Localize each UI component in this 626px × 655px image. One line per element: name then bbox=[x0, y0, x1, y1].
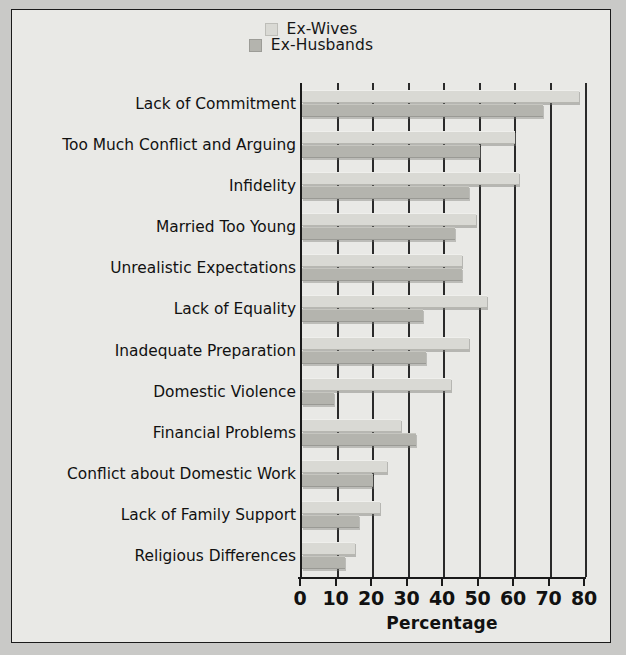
category-label: Conflict about Domestic Work bbox=[67, 465, 296, 483]
category-label: Financial Problems bbox=[153, 424, 296, 442]
bar-ex-wives[interactable] bbox=[302, 295, 487, 308]
bar-ex-wives[interactable] bbox=[302, 90, 579, 103]
chart-row: Lack of Equality bbox=[302, 289, 586, 330]
tick-label-30: 30 bbox=[394, 587, 420, 609]
chart-row: Inadequate Preparation bbox=[302, 330, 586, 371]
legend-swatch-ex-husbands bbox=[249, 39, 262, 52]
bar-ex-husbands[interactable] bbox=[302, 104, 543, 117]
bar-ex-wives[interactable] bbox=[302, 542, 355, 555]
category-label: Religious Differences bbox=[134, 547, 296, 565]
legend-item-ex-wives[interactable]: Ex-Wives bbox=[265, 22, 358, 37]
category-label: Infidelity bbox=[229, 177, 296, 195]
tick-label-40: 40 bbox=[429, 587, 455, 609]
chart-row: Lack of Family Support bbox=[302, 495, 586, 536]
legend-label-ex-wives: Ex-Wives bbox=[287, 22, 358, 37]
tickmark-20 bbox=[370, 577, 372, 586]
bar-ex-wives[interactable] bbox=[302, 254, 462, 267]
category-label: Unrealistic Expectations bbox=[110, 259, 296, 277]
category-label: Too Much Conflict and Arguing bbox=[62, 135, 296, 153]
bar-ex-husbands[interactable] bbox=[302, 433, 416, 446]
tickmark-70 bbox=[548, 577, 550, 586]
tickmark-10 bbox=[335, 577, 337, 586]
tickmark-50 bbox=[477, 577, 479, 586]
chart-figure: Ex-Wives Ex-Husbands Lack of CommitmentT… bbox=[11, 9, 611, 643]
bar-ex-wives[interactable] bbox=[302, 337, 469, 350]
chart-row: Lack of Commitment bbox=[302, 83, 586, 124]
bar-ex-wives[interactable] bbox=[302, 501, 380, 514]
bar-ex-husbands[interactable] bbox=[302, 392, 334, 405]
tickmark-80 bbox=[583, 577, 585, 586]
chart-row: Too Much Conflict and Arguing bbox=[302, 124, 586, 165]
chart-row: Unrealistic Expectations bbox=[302, 248, 586, 289]
category-label: Inadequate Preparation bbox=[115, 341, 296, 359]
category-label: Lack of Equality bbox=[174, 300, 296, 318]
tick-label-60: 60 bbox=[500, 587, 526, 609]
category-label: Married Too Young bbox=[156, 218, 296, 236]
chart-row: Infidelity bbox=[302, 165, 586, 206]
bar-ex-wives[interactable] bbox=[302, 172, 519, 185]
tickmark-0 bbox=[299, 577, 301, 586]
category-label: Lack of Commitment bbox=[135, 94, 296, 112]
plot-area: Lack of CommitmentToo Much Conflict and … bbox=[300, 83, 586, 577]
bar-ex-wives[interactable] bbox=[302, 378, 451, 391]
chart-row: Domestic Violence bbox=[302, 371, 586, 412]
legend-swatch-ex-wives bbox=[265, 23, 278, 36]
bar-ex-husbands[interactable] bbox=[302, 145, 480, 158]
bar-ex-husbands[interactable] bbox=[302, 186, 469, 199]
bar-ex-wives[interactable] bbox=[302, 460, 387, 473]
bar-ex-wives[interactable] bbox=[302, 131, 515, 144]
chart-row: Conflict about Domestic Work bbox=[302, 454, 586, 495]
tickmark-40 bbox=[441, 577, 443, 586]
tick-label-20: 20 bbox=[358, 587, 384, 609]
bar-ex-husbands[interactable] bbox=[302, 515, 359, 528]
tick-label-70: 70 bbox=[536, 587, 562, 609]
category-label: Lack of Family Support bbox=[121, 506, 296, 524]
tick-label-50: 50 bbox=[465, 587, 491, 609]
bar-ex-husbands[interactable] bbox=[302, 474, 373, 487]
chart-row: Financial Problems bbox=[302, 412, 586, 453]
bar-ex-husbands[interactable] bbox=[302, 351, 426, 364]
chart-row: Religious Differences bbox=[302, 536, 586, 577]
bar-ex-husbands[interactable] bbox=[302, 268, 462, 281]
category-label: Domestic Violence bbox=[153, 382, 296, 400]
tickmark-60 bbox=[512, 577, 514, 586]
chart-legend: Ex-Wives Ex-Husbands bbox=[12, 22, 610, 53]
tick-label-80: 80 bbox=[571, 587, 597, 609]
tick-label-0: 0 bbox=[294, 587, 307, 609]
chart-row: Married Too Young bbox=[302, 207, 586, 248]
legend-label-ex-husbands: Ex-Husbands bbox=[271, 38, 373, 53]
x-axis-title: Percentage bbox=[300, 613, 584, 633]
bar-ex-wives[interactable] bbox=[302, 419, 401, 432]
bar-ex-husbands[interactable] bbox=[302, 227, 455, 240]
legend-item-ex-husbands[interactable]: Ex-Husbands bbox=[249, 38, 373, 53]
tick-label-10: 10 bbox=[323, 587, 349, 609]
bar-ex-wives[interactable] bbox=[302, 213, 476, 226]
bar-ex-husbands[interactable] bbox=[302, 556, 345, 569]
bar-ex-husbands[interactable] bbox=[302, 309, 423, 322]
tickmark-30 bbox=[406, 577, 408, 586]
